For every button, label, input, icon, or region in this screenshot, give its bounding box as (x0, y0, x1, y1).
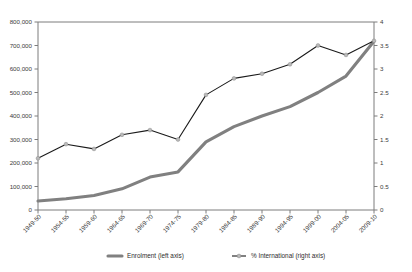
left-tick-label: 500,000 (10, 89, 33, 96)
data-point-marker (176, 138, 180, 142)
right-tick-label: 3 (380, 65, 384, 72)
legend-marker-international (237, 254, 241, 258)
right-tick-label: 1 (380, 159, 384, 166)
x-tick-label: 2004-05 (329, 212, 350, 233)
data-point-marker (316, 44, 320, 48)
right-tick-label: 2 (380, 112, 384, 119)
right-tick-label: 4 (380, 18, 384, 25)
x-tick-label: 2009-10 (357, 212, 378, 233)
right-tick-label: 1.5 (380, 136, 389, 143)
right-tick-label: 3.5 (380, 42, 389, 49)
chart-plot: 0100,000200,000300,000400,000500,000600,… (0, 0, 412, 272)
chart-container: 0100,000200,000300,000400,000500,000600,… (0, 0, 412, 272)
data-point-marker (372, 39, 376, 43)
left-tick-label: 0 (29, 206, 33, 213)
right-tick-label: 0.5 (380, 183, 389, 190)
x-tick-label: 1954-55 (49, 212, 70, 233)
left-tick-label: 600,000 (10, 65, 33, 72)
legend-label: Enrolment (left axis) (127, 252, 184, 260)
data-point-marker (344, 53, 348, 57)
series-line (38, 41, 374, 201)
x-tick-label: 1984-85 (217, 212, 238, 233)
left-tick-label: 800,000 (10, 18, 33, 25)
left-tick-label: 200,000 (10, 159, 33, 166)
plot-frame (38, 22, 374, 210)
chart-legend: Enrolment (left axis)% International (ri… (108, 252, 325, 260)
right-axis: 00.511.522.533.54 (374, 18, 389, 213)
series-layer (36, 39, 376, 201)
left-tick-label: 700,000 (10, 42, 33, 49)
x-tick-label: 1999-00 (301, 212, 322, 233)
left-tick-label: 400,000 (10, 112, 33, 119)
x-tick-label: 1994-95 (273, 212, 294, 233)
data-point-marker (232, 77, 236, 81)
right-tick-label: 2.5 (380, 89, 389, 96)
x-axis: 1949-501954-551959-601964-651969-701974-… (21, 210, 378, 234)
data-point-marker (260, 72, 264, 76)
left-tick-label: 100,000 (10, 183, 33, 190)
data-point-marker (288, 62, 292, 66)
right-tick-label: 0 (380, 206, 384, 213)
data-point-marker (120, 133, 124, 137)
x-tick-label: 1964-65 (105, 212, 126, 233)
data-point-marker (64, 142, 68, 146)
x-tick-label: 1989-90 (245, 212, 266, 233)
x-tick-label: 1949-50 (21, 212, 42, 233)
data-point-marker (148, 128, 152, 132)
data-point-marker (92, 147, 96, 151)
x-tick-label: 1959-60 (77, 212, 98, 233)
x-tick-label: 1979-80 (189, 212, 210, 233)
legend-label: % International (right axis) (251, 252, 325, 260)
data-point-marker (204, 93, 208, 97)
left-tick-label: 300,000 (10, 136, 33, 143)
left-axis: 0100,000200,000300,000400,000500,000600,… (10, 18, 38, 213)
x-tick-label: 1974-75 (161, 212, 182, 233)
x-tick-label: 1969-70 (133, 212, 154, 233)
data-point-marker (36, 156, 40, 160)
